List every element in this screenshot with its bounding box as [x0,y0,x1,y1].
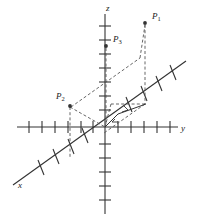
point-dot-p1 [143,21,147,25]
x-axis-line [13,61,186,185]
plotted-points [68,21,147,108]
coordinate-system-figure: z y x P1 P2 P3 [0,0,200,222]
point-dot-p3 [104,44,108,48]
y-axis-label: y [181,124,185,133]
point-dot-p2 [68,104,72,108]
z-axis-label: z [106,4,110,13]
point-label-p3: P3 [113,35,122,44]
axes-and-points-drawing [0,0,200,222]
x-axis-label: x [18,181,22,190]
point-label-p1: P1 [152,12,161,21]
upper-connector [140,25,145,58]
p1-parallel-guide [104,104,145,133]
point-label-p2: P2 [56,92,65,101]
